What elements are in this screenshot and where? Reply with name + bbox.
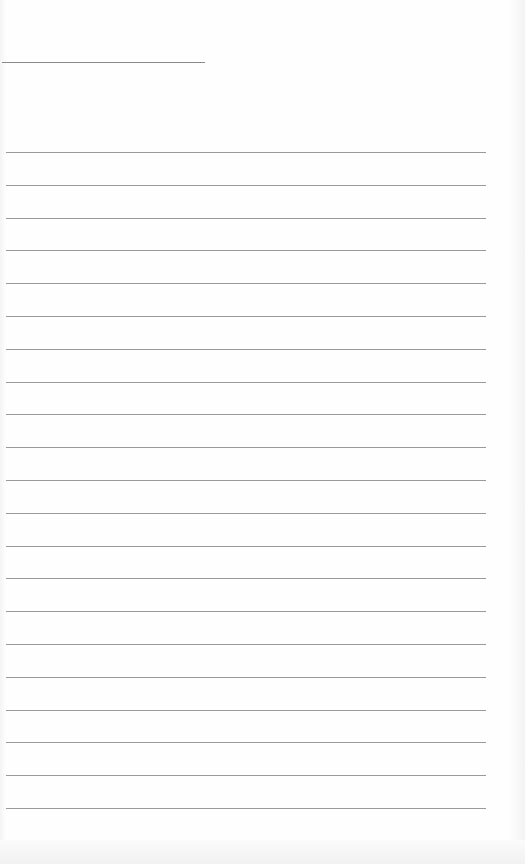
ruled-lines — [0, 0, 525, 864]
ruled-line — [6, 447, 486, 448]
ruled-line — [6, 644, 486, 645]
ruled-line — [6, 349, 486, 350]
ruled-line — [6, 414, 486, 415]
ruled-line — [6, 513, 486, 514]
ruled-line — [6, 185, 486, 186]
ruled-line — [6, 316, 486, 317]
ruled-line — [6, 250, 486, 251]
ruled-line — [6, 710, 486, 711]
ruled-line — [6, 578, 486, 579]
ruled-line — [6, 152, 486, 153]
ruled-line — [6, 283, 486, 284]
ruled-line — [6, 382, 486, 383]
lined-paper-page — [0, 0, 525, 864]
ruled-line — [6, 677, 486, 678]
ruled-line — [6, 546, 486, 547]
ruled-line — [6, 218, 486, 219]
ruled-line — [6, 775, 486, 776]
ruled-line — [6, 480, 486, 481]
ruled-line — [6, 808, 486, 809]
page-bottom-edge — [0, 840, 525, 864]
ruled-line — [6, 742, 486, 743]
ruled-line — [6, 611, 486, 612]
